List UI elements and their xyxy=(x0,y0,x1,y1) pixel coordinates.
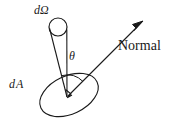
solid-angle-circle xyxy=(49,18,67,36)
radiometry-solid-angle-diagram: dΩ d A θ Normal xyxy=(0,0,177,124)
diagram-canvas xyxy=(0,0,177,124)
solid-angle-label: dΩ xyxy=(34,4,49,16)
area-element-label: d A xyxy=(9,78,23,90)
angle-theta-label: θ xyxy=(69,50,75,62)
normal-label: Normal xyxy=(118,39,161,53)
cone-slant-left xyxy=(50,29,67,98)
